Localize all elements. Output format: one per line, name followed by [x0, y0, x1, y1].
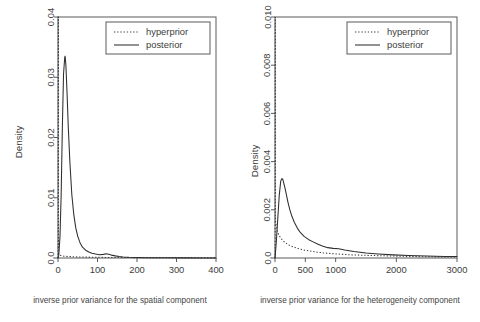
- y-tick-label: 0.01: [45, 189, 56, 207]
- x-tick-label: 300: [169, 264, 185, 275]
- x-tick-label: 0: [55, 264, 60, 275]
- y-tick-label: 0.03: [45, 68, 56, 86]
- y-tick-label: 0.008: [262, 53, 273, 76]
- y-tick-label: 0.04: [45, 8, 56, 26]
- x-tick-label: 3000: [447, 264, 468, 275]
- x-tick-label: 1000: [325, 264, 346, 275]
- y-tick-label: 0.006: [262, 102, 273, 125]
- x-tick-label: 0: [272, 264, 277, 275]
- y-tick-label: 0.004: [262, 150, 273, 173]
- legend-label-posterior: posterior: [387, 39, 423, 50]
- x-tick-label: 500: [298, 264, 314, 275]
- panel-caption-spatial: inverse prior variance for the spatial c…: [0, 296, 240, 305]
- y-tick-label: 0.010: [262, 5, 273, 28]
- panel-spatial-component: 01002003004000.00.010.020.030.04 hyperpr…: [0, 0, 240, 322]
- curve-posterior: [275, 178, 457, 258]
- plot-area-spatial: 01002003004000.00.010.020.030.04 hyperpr…: [0, 0, 240, 322]
- y-tick-label: 0.02: [45, 128, 56, 146]
- y-tick-label: 0.0: [262, 251, 273, 264]
- y-tick-label: 0.002: [262, 198, 273, 221]
- legend-label-hyperprior: hyperprior: [146, 26, 188, 37]
- plot-area-heterogeneity: 05001000200030000.00.0020.0040.0060.0080…: [240, 0, 480, 322]
- x-tick-label: 200: [129, 264, 145, 275]
- y-axis-title: Density: [13, 126, 24, 159]
- y-axis-title: Density: [249, 145, 260, 178]
- x-tick-label: 400: [208, 264, 224, 275]
- curve-posterior: [58, 56, 216, 258]
- density-figure: 01002003004000.00.010.020.030.04 hyperpr…: [0, 0, 480, 322]
- legend-label-hyperprior: hyperprior: [387, 26, 429, 37]
- x-tick-label: 100: [90, 264, 106, 275]
- y-tick-label: 0.0: [45, 251, 56, 264]
- panel-caption-heterogeneity: inverse prior variance for the heterogen…: [240, 296, 480, 305]
- panel-heterogeneity-component: 05001000200030000.00.0020.0040.0060.0080…: [240, 0, 480, 322]
- legend-label-posterior: posterior: [146, 39, 182, 50]
- x-tick-label: 2000: [386, 264, 407, 275]
